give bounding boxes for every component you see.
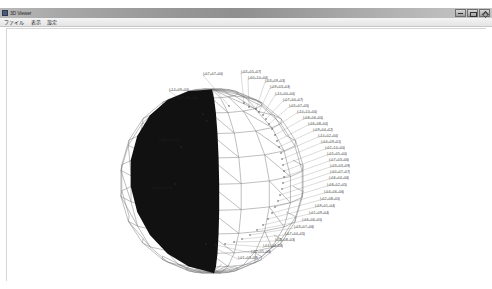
coordinate-label: (+0.9,+0.4,+0.2) [313, 128, 333, 132]
dark-band-group [131, 90, 220, 274]
vertex-marker [276, 140, 277, 141]
leader-line [277, 125, 308, 141]
vertex-marker [180, 146, 181, 147]
leader-line [279, 131, 313, 147]
vertex-marker [258, 111, 259, 112]
menu-item-settings[interactable]: 設定 [46, 19, 58, 26]
coordinate-label: (+0.6,+0.6,+0.5) [302, 218, 322, 222]
coordinate-label: (+0.5,+0.8,+0.3) [275, 238, 295, 242]
leader-line [284, 155, 327, 171]
vertex-marker [274, 206, 275, 207]
coordinate-label: (+0.4,+0.6,+0.6) [324, 190, 344, 194]
leader-line [225, 244, 263, 247]
coordinate-label: (+0.8,+0.2,+0.5) [327, 183, 347, 187]
vertex-marker [279, 194, 280, 195]
coordinate-label: (+1.2,+0.8,+0.0) [177, 96, 197, 100]
vertex-marker [267, 218, 268, 219]
window-controls [455, 9, 490, 17]
maximize-button[interactable] [467, 9, 478, 17]
coordinate-label: (+0.9,+0.1,+0.4) [315, 204, 335, 208]
vertex-marker [248, 106, 249, 107]
menu-bar: ファイル 表示 設定 [0, 18, 492, 27]
vertex-marker [268, 123, 269, 124]
coordinate-label: (+0.7,+0.4,+0.5) [285, 232, 305, 236]
vertex-marker [202, 113, 203, 114]
vertex-marker [283, 170, 284, 171]
vertex-marker [241, 238, 242, 239]
coordinate-label: (+0.7,+0.7,+0.0) [203, 72, 223, 76]
vertex-marker [205, 243, 206, 244]
coordinate-label: (+1.4,+0.9,+0.0) [169, 88, 189, 92]
coordinate-label: (+0.6,+0.3,+0.7) [152, 186, 172, 190]
coordinate-label: (+0.5,+0.7,+0.5) [289, 104, 309, 108]
coordinate-label: (+0.1,+0.9,+0.4) [309, 211, 329, 215]
leader-line [281, 137, 318, 153]
vertex-marker [206, 120, 207, 121]
vertex-marker [224, 243, 225, 244]
leader-line [248, 79, 249, 107]
vertex-marker [256, 229, 257, 230]
leader-line [283, 149, 325, 165]
app-icon [2, 10, 8, 16]
vertex-marker [271, 212, 272, 213]
coordinate-label: (+0.2,+0.5,+0.8) [251, 250, 271, 254]
coordinate-label: (+0.8,+0.5,+0.2) [159, 138, 179, 142]
vertex-marker [249, 234, 250, 235]
leader-line [282, 143, 321, 159]
coordinate-label: (+0.6,+0.8,+0.0) [308, 122, 328, 126]
leader-line [234, 241, 275, 242]
vertex-marker [282, 164, 283, 165]
vertex-marker [243, 102, 244, 103]
3d-viewport[interactable]: (+0.7,+0.7,+0.0)(+0.5,+0.5,+0.7)(+0.0,+1… [7, 29, 486, 281]
coordinate-label: (+0.1,+0.3,+0.9) [238, 256, 258, 260]
vertex-marker [265, 118, 266, 119]
application-window: 3D Viewer ファイル 表示 設定 (+0.7,+0.7,+0.0)(+0… [0, 8, 492, 289]
leader-line [275, 119, 303, 135]
coordinate-label: (+0.9,+0.3,+0.3) [270, 85, 290, 89]
window-bottom-chrome [0, 281, 492, 289]
vertex-marker [262, 114, 263, 115]
leader-line [256, 82, 265, 109]
vertex-marker [280, 152, 281, 153]
coordinate-label: (+0.5,+0.5,+0.0) [327, 152, 347, 156]
coordinate-label: (+0.2,+0.8,+0.5) [320, 197, 340, 201]
vertex-marker [274, 134, 275, 135]
vertex-marker [215, 244, 216, 245]
vertex-marker [283, 176, 284, 177]
vertex-marker [233, 241, 234, 242]
client-area[interactable]: (+0.7,+0.7,+0.0)(+0.5,+0.5,+0.7)(+0.0,+1… [6, 28, 486, 281]
coordinate-label: (+1.0,+0.0,+0.0) [275, 92, 295, 96]
vertex-marker [281, 188, 282, 189]
highlighted-band [131, 90, 220, 274]
vertex-marker [228, 105, 229, 106]
coordinate-label: (+0.2,+1.0,+0.0) [325, 146, 345, 150]
coordinate-label: (+1.0,+0.2,+0.0) [318, 134, 338, 138]
vertex-marker [278, 146, 279, 147]
vertex-marker [255, 108, 256, 109]
leader-line [284, 161, 329, 177]
coordinate-label: (+0.4,+0.9,+0.1) [321, 140, 341, 144]
coordinate-label: (+0.6,+0.4,+0.6) [329, 176, 349, 180]
coordinate-label: (+0.3,+0.7,+0.6) [294, 225, 314, 229]
vertex-marker [271, 128, 272, 129]
leader-line [272, 113, 297, 129]
coordinate-label: (+0.4,+0.4,+0.8) [263, 244, 283, 248]
coordinate-label: (+1.0,+1.0,+0.0) [297, 110, 317, 114]
close-button[interactable] [479, 9, 490, 17]
vertex-marker [262, 224, 263, 225]
window-title: 3D Viewer [10, 8, 31, 18]
menu-item-view[interactable]: 表示 [30, 19, 42, 26]
title-bar[interactable]: 3D Viewer [0, 8, 492, 18]
coordinate-label: (+0.3,+0.9,+0.3) [265, 79, 285, 83]
vertex-marker [281, 158, 282, 159]
coordinate-label: (+0.8,+0.6,+0.0) [303, 116, 323, 120]
vertex-marker [174, 183, 175, 184]
coordinate-label: (+0.0,+0.7,+0.7) [330, 170, 350, 174]
leader-line [241, 73, 244, 103]
coordinate-label: (+0.3,+0.3,+0.9) [330, 164, 350, 168]
menu-item-file[interactable]: ファイル [3, 19, 25, 26]
vertex-marker [277, 200, 278, 201]
coordinate-label: (+0.5,+0.5,+0.7) [241, 70, 261, 74]
coordinate-label: (+0.7,+0.0,+0.7) [283, 98, 303, 102]
minimize-button[interactable] [455, 9, 466, 17]
